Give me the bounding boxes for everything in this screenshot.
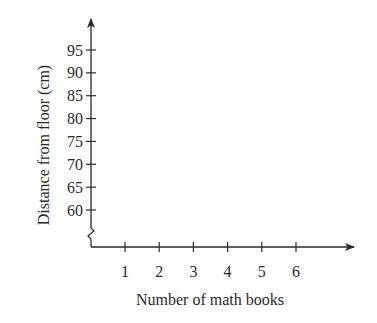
y-axis [88,19,94,247]
x-tick-label: 5 [258,263,266,280]
y-tick-label: 85 [67,87,83,104]
y-tick-label: 70 [67,156,83,173]
y-tick-label: 60 [67,202,83,219]
y-tick-label: 95 [67,42,83,59]
y-tick-label: 75 [67,133,83,150]
x-tick-label: 4 [224,263,232,280]
y-tick-label: 80 [67,110,83,127]
x-tick-label: 1 [121,263,129,280]
y-tick-label: 90 [67,64,83,81]
axis-break-icon [88,228,94,239]
x-tick-label: 3 [189,263,197,280]
x-tick-label: 6 [292,263,300,280]
x-tick-group: 123456 [121,242,300,280]
y-tick-label: 65 [67,179,83,196]
y-axis-label: Distance from floor (cm) [35,65,53,225]
x-tick-label: 2 [155,263,163,280]
chart-area: 6065707580859095 123456 Number of math b… [0,0,377,323]
x-axis-label: Number of math books [136,291,284,308]
